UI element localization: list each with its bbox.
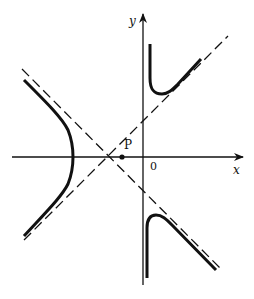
origin-label: 0: [150, 160, 157, 173]
hyperbola-lower-branch: [147, 215, 216, 278]
hyperbola-left-branch: [24, 80, 73, 236]
point-p: [119, 154, 124, 159]
y-axis-label: y: [128, 14, 136, 28]
hyperbola-upper-branch: [150, 44, 201, 94]
point-p-label: P: [124, 138, 132, 152]
hyperbola-diagram: P 0 y x: [0, 0, 254, 299]
x-axis-label: x: [233, 163, 240, 177]
asymptote-descending: [22, 69, 220, 268]
